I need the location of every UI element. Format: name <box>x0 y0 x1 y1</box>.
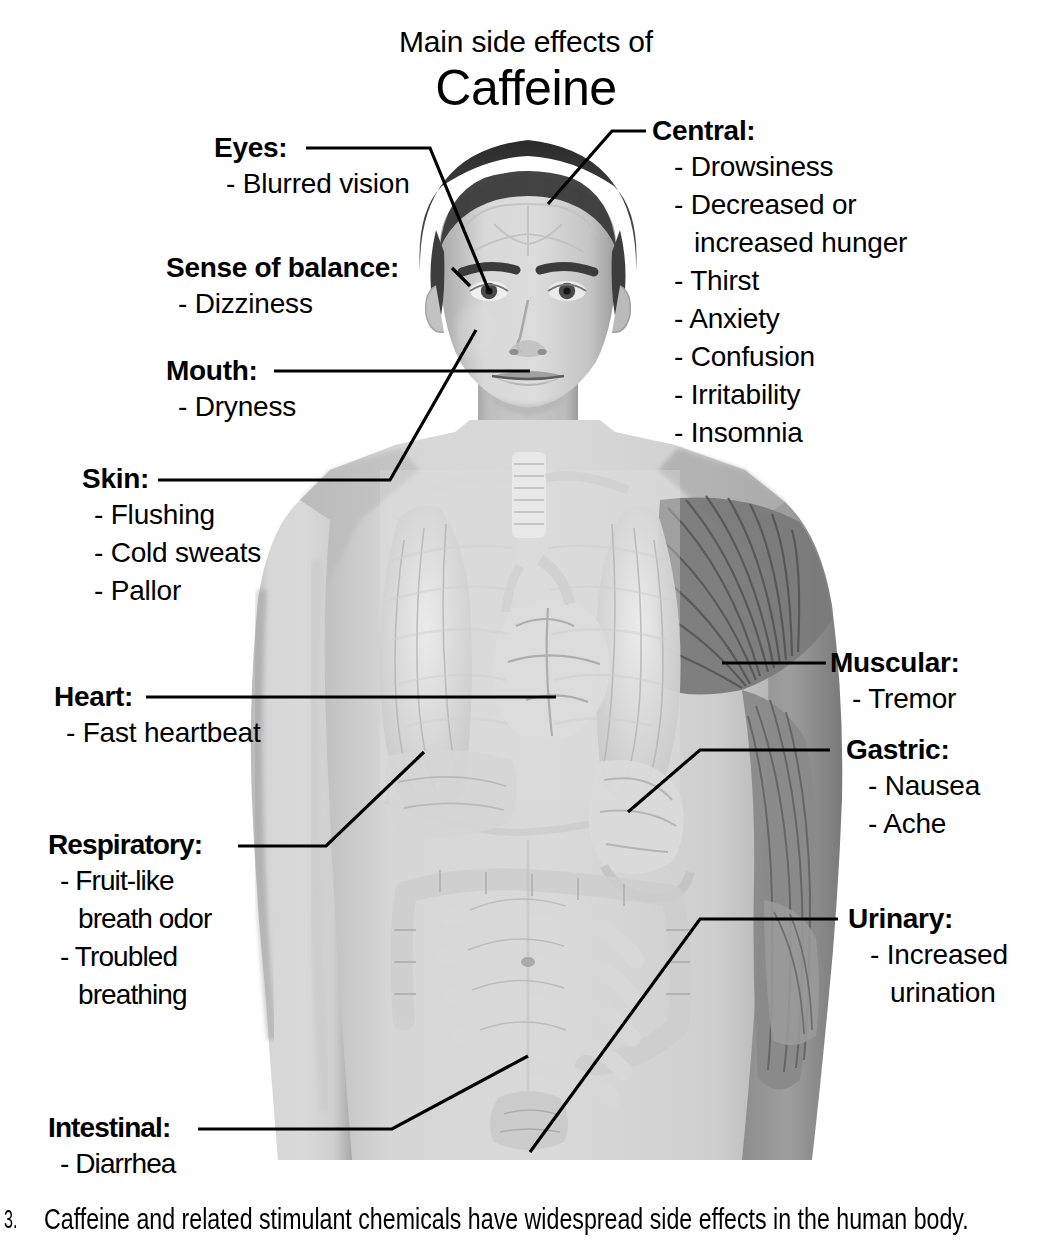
label-heart[interactable]: Heart: - Fast heartbeat <box>54 680 260 752</box>
liver <box>386 750 517 837</box>
label-central-item-4: - Anxiety <box>652 300 907 338</box>
label-gastric-head: Gastric: <box>846 733 980 767</box>
label-heart-head: Heart: <box>54 680 260 714</box>
label-eyes-head: Eyes: <box>214 131 410 165</box>
label-central-item-3: - Thirst <box>652 262 907 300</box>
label-central[interactable]: Central: - Drowsiness - Decreased or inc… <box>652 114 907 452</box>
label-gastric-item-1: - Ache <box>846 805 980 843</box>
label-central-item-5: - Confusion <box>652 338 907 376</box>
label-balance-item-0: - Dizziness <box>166 285 399 323</box>
label-respiratory-item-3: breathing <box>48 976 211 1014</box>
label-urinary[interactable]: Urinary: - Increased urination <box>848 902 1008 1012</box>
label-heart-item-0: - Fast heartbeat <box>54 714 260 752</box>
figure-caption-text: Caffeine and related stimulant chemicals… <box>44 1202 969 1236</box>
label-intestinal-head: Intestinal: <box>48 1111 175 1145</box>
label-central-item-7: - Insomnia <box>652 414 907 452</box>
label-respiratory[interactable]: Respiratory: - Fruit-like breath odor - … <box>48 828 211 1014</box>
head-region <box>419 140 636 416</box>
eye-left <box>470 281 508 301</box>
label-eyes-item-0: - Blurred vision <box>214 165 410 203</box>
label-skin-item-0: - Flushing <box>82 496 261 534</box>
label-skin[interactable]: Skin: - Flushing - Cold sweats - Pallor <box>82 462 261 610</box>
label-central-head: Central: <box>652 114 907 148</box>
label-mouth-head: Mouth: <box>166 354 296 388</box>
label-skin-head: Skin: <box>82 462 261 496</box>
label-respiratory-head: Respiratory: <box>48 828 211 862</box>
label-urinary-head: Urinary: <box>848 902 1008 936</box>
label-intestinal-item-0: - Diarrhea <box>48 1145 175 1183</box>
label-gastric-item-0: - Nausea <box>846 767 980 805</box>
trachea <box>512 452 546 538</box>
label-skin-item-2: - Pallor <box>82 572 261 610</box>
label-gastric[interactable]: Gastric: - Nausea - Ache <box>846 733 980 843</box>
label-balance[interactable]: Sense of balance: - Dizziness <box>166 251 399 323</box>
label-respiratory-item-1: breath odor <box>48 900 211 938</box>
label-intestinal[interactable]: Intestinal: - Diarrhea <box>48 1111 175 1183</box>
figure-caption: 3. Caffeine and related stimulant chemic… <box>0 1196 1052 1246</box>
label-muscular-head: Muscular: <box>830 646 960 680</box>
label-muscular[interactable]: Muscular: - Tremor <box>830 646 960 718</box>
label-balance-head: Sense of balance: <box>166 251 399 285</box>
figure-number: 3. <box>4 1204 17 1235</box>
label-central-item-0: - Drowsiness <box>652 148 907 186</box>
label-urinary-item-1: urination <box>848 974 1008 1012</box>
label-central-item-1: - Decreased or <box>652 186 907 224</box>
bladder <box>490 1091 568 1150</box>
label-eyes[interactable]: Eyes: - Blurred vision <box>214 131 410 203</box>
label-urinary-item-0: - Increased <box>848 936 1008 974</box>
eye-right <box>548 281 586 301</box>
caffeine-side-effects-figure: Main side effects of Caffeine <box>0 0 1052 1246</box>
label-respiratory-item-2: - Troubled <box>48 938 211 976</box>
label-mouth-item-0: - Dryness <box>166 388 296 426</box>
label-skin-item-1: - Cold sweats <box>82 534 261 572</box>
label-central-item-2: increased hunger <box>652 224 907 262</box>
label-mouth[interactable]: Mouth: - Dryness <box>166 354 296 426</box>
label-central-item-6: - Irritability <box>652 376 907 414</box>
label-muscular-item-0: - Tremor <box>830 680 960 718</box>
label-respiratory-item-0: - Fruit-like <box>48 862 211 900</box>
